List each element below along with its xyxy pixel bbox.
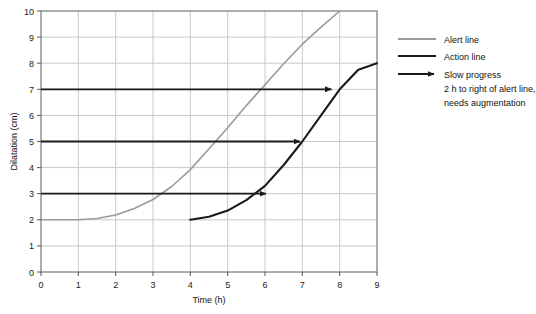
xtick-label-2: 2 — [113, 280, 118, 290]
xtick-label-3: 3 — [150, 280, 155, 290]
ytick-label-10: 10 — [24, 7, 34, 17]
ytick-label-0: 0 — [29, 268, 34, 278]
xtick-label-8: 8 — [337, 280, 342, 290]
chart-canvas: 10 9 8 7 6 5 4 3 2 1 0 0 1 — [0, 0, 536, 314]
x-axis-tick-labels: 0 1 2 3 4 5 6 7 8 9 — [38, 280, 379, 290]
ytick-label-7: 7 — [29, 85, 34, 95]
xtick-label-0: 0 — [38, 280, 43, 290]
legend-label-alert-line: Alert line — [444, 35, 479, 45]
xtick-label-6: 6 — [262, 280, 267, 290]
xtick-label-1: 1 — [76, 280, 81, 290]
legend-label-action-line: Action line — [444, 52, 486, 62]
y-axis-tick-labels: 10 9 8 7 6 5 4 3 2 1 0 — [24, 7, 34, 278]
x-axis-title: Time (h) — [192, 295, 225, 305]
ytick-label-3: 3 — [29, 189, 34, 199]
ytick-label-2: 2 — [29, 215, 34, 225]
ytick-label-1: 1 — [29, 241, 34, 251]
ytick-label-6: 6 — [29, 111, 34, 121]
xtick-label-5: 5 — [225, 280, 230, 290]
xtick-label-7: 7 — [300, 280, 305, 290]
partogram-figure: 10 9 8 7 6 5 4 3 2 1 0 0 1 — [0, 0, 536, 314]
legend-note-line-2: needs augmentation — [444, 98, 526, 108]
ytick-label-8: 8 — [29, 59, 34, 69]
ytick-label-5: 5 — [29, 137, 34, 147]
ytick-label-4: 4 — [29, 163, 34, 173]
xtick-label-9: 9 — [374, 280, 379, 290]
legend-label-slow-progress: Slow progress — [444, 70, 502, 80]
legend-note-line-1: 2 h to right of alert line, — [444, 84, 536, 94]
ytick-label-9: 9 — [29, 33, 34, 43]
xtick-label-4: 4 — [188, 280, 193, 290]
chart-legend: Alert line Action line Slow progress 2 h… — [398, 35, 536, 108]
y-axis-title: Dilatation (cm) — [9, 112, 19, 170]
